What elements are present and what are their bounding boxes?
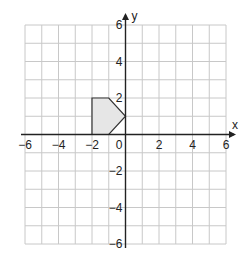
x-tick-label: 4 xyxy=(189,138,196,152)
y-tick-label: 6 xyxy=(116,18,123,32)
y-tick-label: 2 xyxy=(116,91,123,105)
y-axis-arrow-icon xyxy=(122,13,129,20)
x-axis-label: x xyxy=(232,118,238,132)
x-tick-label: −2 xyxy=(85,138,99,152)
x-tick-label: −4 xyxy=(52,138,66,152)
tick-labels: xy−6−4−2246642−2−4−60 xyxy=(18,9,238,251)
coordinate-grid-chart: xy−6−4−2246642−2−4−60 xyxy=(0,0,248,262)
y-tick-label: −2 xyxy=(109,164,123,178)
axes xyxy=(21,13,236,248)
y-axis-label: y xyxy=(132,9,138,23)
y-tick-label: 4 xyxy=(116,55,123,69)
x-tick-label: −6 xyxy=(18,138,32,152)
x-tick-label: 2 xyxy=(156,138,163,152)
y-tick-label: −4 xyxy=(109,201,123,215)
x-axis-arrow-icon xyxy=(229,131,236,138)
y-tick-label: −6 xyxy=(109,237,123,251)
x-tick-label: 6 xyxy=(223,138,230,152)
origin-label: 0 xyxy=(116,138,123,152)
